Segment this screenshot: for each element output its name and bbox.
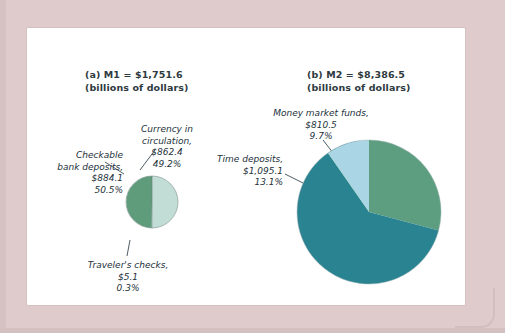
- figure-frame: (a) M1 = $1,751.6 (billions of dollars) …: [0, 0, 505, 333]
- figure-card: (a) M1 = $1,751.6 (billions of dollars) …: [27, 28, 465, 305]
- pie-chart-m2: [295, 138, 455, 298]
- page-edge-bottom: [0, 328, 505, 333]
- page-edge-left: [0, 0, 6, 333]
